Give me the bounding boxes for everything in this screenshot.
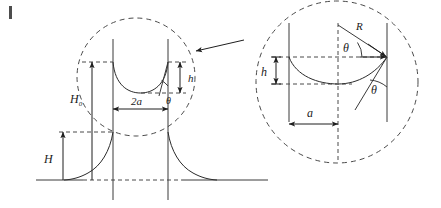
left-overview-diagram: H0 H 2a h θ [36, 18, 268, 200]
left-magnifier-circle [77, 18, 195, 136]
label-theta-left: θ [166, 95, 171, 106]
label-theta-lower: θ [371, 83, 377, 97]
label-a-right: a [307, 106, 313, 120]
contact-angle-tangent-line [159, 62, 168, 96]
label-2a: 2a [131, 95, 143, 107]
label-h-right: h [261, 65, 267, 79]
corner-crop-mark [9, 6, 12, 19]
detail-theta-upper-arc [358, 43, 363, 58]
right-detail-diagram: h a R θ θ [256, 1, 418, 163]
magnifier-connector [196, 40, 244, 51]
outer-meniscus-left [64, 132, 113, 180]
figure-root: H0 H 2a h θ [0, 0, 441, 208]
figure-svg: H0 H 2a h θ [0, 0, 441, 208]
label-H0: H0 [69, 92, 83, 108]
magnifier-leader-line [196, 40, 244, 51]
right-detail-circle [256, 1, 418, 163]
label-h-left: h [188, 72, 194, 84]
label-theta-upper: θ [343, 41, 349, 55]
outer-meniscus-right [168, 132, 217, 180]
label-R: R [355, 20, 363, 32]
inner-meniscus-curve [113, 62, 168, 93]
label-H: H [43, 152, 54, 166]
detail-radius-arrow [368, 44, 386, 57]
